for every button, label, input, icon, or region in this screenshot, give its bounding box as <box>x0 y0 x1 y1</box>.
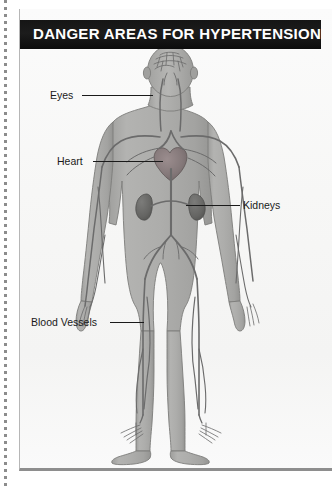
ear-left <box>143 67 150 79</box>
leader-line-kidneys <box>186 205 240 206</box>
callout-label-kidneys: Kidneys <box>243 199 280 211</box>
human-body-circulatory-diagram <box>20 49 321 468</box>
ankle-vessel-right <box>199 415 202 423</box>
title-bar: DANGER AREAS FOR HYPERTENSION <box>20 20 321 49</box>
leader-line-eyes <box>82 95 153 96</box>
ear-right <box>190 67 197 79</box>
foot-vessels-right <box>199 423 221 443</box>
tibial-right <box>199 349 206 413</box>
foot-right <box>170 451 209 465</box>
dotted-margin-cut-line <box>4 0 7 488</box>
callout-label-blood-vessels: Blood Vessels <box>31 316 97 328</box>
leader-line-blood-vessels <box>110 322 144 323</box>
head-shape <box>148 49 194 97</box>
callout-label-eyes: Eyes <box>50 89 73 101</box>
foot-left <box>112 451 151 465</box>
leg-right <box>167 331 185 451</box>
femoral-right <box>197 279 199 415</box>
leader-line-heart <box>93 161 163 162</box>
anatomy-figure-area <box>20 49 321 468</box>
hand-vessels-right <box>247 304 259 326</box>
figure-root: DANGER AREAS FOR HYPERTENSION <box>0 0 332 488</box>
arm-right <box>208 122 240 302</box>
hand-right <box>229 301 245 331</box>
callout-label-heart: Heart <box>57 155 83 167</box>
saphenous-right <box>192 297 198 409</box>
page-title: DANGER AREAS FOR HYPERTENSION <box>33 25 321 42</box>
